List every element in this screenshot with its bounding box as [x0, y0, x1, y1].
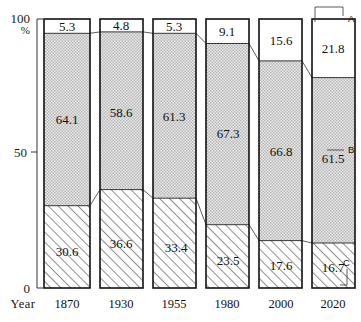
connector-bot-2 — [143, 190, 153, 199]
bar-1955-value-b: 61.3 — [163, 109, 186, 124]
connector-bot-1 — [90, 190, 100, 206]
x-tick-label-1980: 1980 — [215, 297, 240, 311]
bar-1980-value-b: 67.3 — [217, 126, 240, 141]
connector-top-4 — [249, 44, 259, 61]
callout-a-label: A — [348, 13, 355, 24]
bar-group-1955[interactable]: 5.3 61.3 33.4 — [153, 19, 196, 288]
connector-top-5 — [302, 61, 312, 78]
bar-1870-value-a: 5.3 — [59, 19, 75, 34]
bar-2000-value-b: 66.8 — [270, 144, 293, 159]
bar-group-1870[interactable]: 5.3 64.1 30.6 — [44, 19, 90, 288]
chart-canvas: 100 % 50 0 5.3 — [0, 0, 361, 322]
y-axis-label-50: 50 — [14, 145, 27, 160]
x-tick-label-1870: 1870 — [55, 297, 80, 311]
bar-2020-value-c: 16.7 — [322, 260, 345, 275]
bar-1980-value-c: 23.5 — [217, 253, 240, 268]
bar-1870-value-c: 30.6 — [56, 244, 79, 259]
bar-group-1930[interactable]: 4.8 58.6 36.6 — [100, 18, 143, 288]
bar-group-2000[interactable]: 15.6 66.8 17.6 — [259, 19, 302, 288]
connector-bot-5 — [302, 241, 312, 243]
y-axis: 100 % 50 0 — [11, 11, 44, 296]
callout-b-label: B — [348, 144, 354, 155]
x-tick-label-1930: 1930 — [109, 297, 134, 311]
bar-1980-value-a: 9.1 — [219, 24, 235, 39]
x-tick-label-1955: 1955 — [162, 297, 187, 311]
bar-2000-value-c: 17.6 — [270, 258, 293, 273]
stacked-bar-chart: 100 % 50 0 5.3 — [0, 0, 361, 322]
bar-1955-value-c: 33.4 — [165, 240, 188, 255]
y-axis-label-percent: % — [21, 24, 30, 36]
x-tick-label-2020: 2020 — [321, 297, 346, 311]
bar-1930-value-b: 58.6 — [110, 105, 133, 120]
bar-1930-value-a: 4.8 — [113, 18, 129, 33]
connector-top-1 — [90, 32, 100, 33]
bar-2020-value-b: 61.5 — [322, 151, 345, 166]
connector-top-3 — [196, 33, 206, 43]
bar-1870-value-b: 64.1 — [56, 112, 79, 127]
y-axis-label-0: 0 — [24, 281, 31, 296]
connector-top-2 — [143, 32, 153, 33]
x-axis: Year 1870 1930 1955 1980 2000 2020 — [10, 297, 345, 311]
connector-bot-4 — [249, 225, 259, 241]
connector-bot-3 — [196, 198, 206, 225]
callout-c-label: C — [343, 257, 350, 268]
x-axis-title: Year — [10, 297, 35, 311]
bar-2020-value-a: 21.8 — [322, 41, 345, 56]
x-tick-label-2000: 2000 — [269, 297, 294, 311]
bar-1930-value-c: 36.6 — [110, 236, 133, 251]
bar-group-1980[interactable]: 9.1 67.3 23.5 — [206, 19, 249, 288]
bar-1955-value-a: 5.3 — [166, 19, 182, 34]
bar-2000-value-a: 15.6 — [270, 33, 293, 48]
